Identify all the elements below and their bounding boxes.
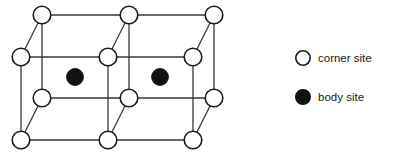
legend-filled-circle-icon (296, 90, 310, 104)
corner-site-back-top-left (33, 6, 51, 24)
corner-site-front-top-right (184, 48, 202, 66)
corner-site-front-top-middle (99, 48, 117, 66)
corner-site-back-bottom-left (33, 89, 51, 107)
body-site-body-site-right (152, 69, 169, 86)
lattice-diagram: corner sitebody site (0, 0, 400, 159)
corner-site-front-bottom-left (12, 131, 30, 149)
lattice-figure: corner sitebody site (0, 0, 400, 159)
corner-site-front-bottom-right (184, 131, 202, 149)
legend-label: body site (318, 91, 364, 103)
legend-item-body-site: body site (296, 90, 364, 104)
legend-label: corner site (318, 52, 372, 64)
legend-item-corner-site: corner site (296, 51, 372, 65)
body-site-body-site-left (67, 69, 84, 86)
corner-site-back-top-middle (120, 6, 138, 24)
legend-open-circle-icon (296, 51, 310, 65)
corner-site-front-bottom-middle (99, 131, 117, 149)
corner-site-back-top-right (205, 6, 223, 24)
corner-site-back-bottom-middle (120, 89, 138, 107)
corner-site-front-top-left (12, 48, 30, 66)
corner-site-back-bottom-right (205, 89, 223, 107)
